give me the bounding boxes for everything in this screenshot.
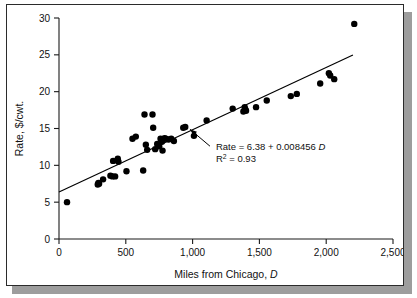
regression-equation-text: Rate = 6.38 + 0.008456 D	[216, 141, 325, 152]
data-point	[140, 167, 146, 173]
figure-frame: 05001,0001,5002,0002,500 051015202530 Ra…	[0, 0, 417, 298]
data-point	[141, 111, 147, 117]
data-point	[288, 93, 294, 99]
data-point	[100, 176, 106, 182]
data-point	[351, 21, 357, 27]
x-axis-title: Miles from Chicago, D	[174, 268, 278, 280]
y-axis-ticks: 051015202530	[39, 13, 59, 245]
data-point	[115, 158, 121, 164]
data-point	[264, 97, 270, 103]
y-tick-label: 15	[39, 123, 51, 134]
data-point	[203, 117, 209, 123]
y-tick-label: 0	[44, 234, 50, 245]
x-tick-label: 1,500	[247, 247, 272, 258]
data-point	[64, 199, 70, 205]
data-point	[317, 80, 323, 86]
data-point	[171, 138, 177, 144]
y-axis-title: Rate, $/cwt.	[13, 101, 25, 156]
data-point	[331, 76, 337, 82]
data-point	[182, 124, 188, 130]
y-tick-label: 5	[44, 197, 50, 208]
scatter-plot: 05001,0001,5002,0002,500 051015202530 Ra…	[7, 5, 403, 285]
r-squared-text: R2 = 0.93	[216, 153, 256, 165]
y-tick-label: 20	[39, 86, 51, 97]
data-point	[159, 147, 165, 153]
data-point	[243, 108, 249, 114]
y-tick-label: 25	[39, 49, 51, 60]
data-point	[150, 125, 156, 131]
data-point	[123, 168, 129, 174]
x-axis-ticks: 05001,0001,5002,0002,500	[56, 239, 403, 258]
data-point	[144, 147, 150, 153]
x-tick-label: 500	[117, 247, 134, 258]
x-tick-label: 0	[56, 247, 62, 258]
data-point	[133, 133, 139, 139]
y-tick-label: 30	[39, 13, 51, 24]
data-point	[253, 104, 259, 110]
data-point	[294, 91, 300, 97]
figure-border-box: 05001,0001,5002,0002,500 051015202530 Ra…	[6, 4, 404, 286]
data-point	[149, 111, 155, 117]
data-points-group	[64, 21, 358, 206]
y-tick-label: 10	[39, 160, 51, 171]
axes-group	[59, 18, 393, 239]
data-point	[112, 173, 118, 179]
x-tick-label: 1,000	[180, 247, 205, 258]
x-tick-label: 2,000	[314, 247, 339, 258]
x-tick-label: 2,500	[380, 247, 403, 258]
data-point	[229, 105, 235, 111]
